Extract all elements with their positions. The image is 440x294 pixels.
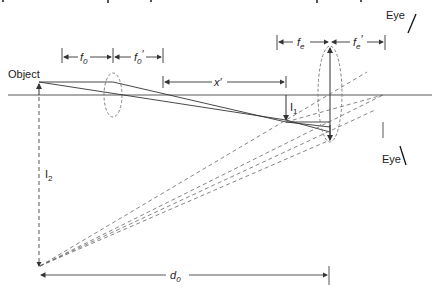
eye-bottom-label: Eye bbox=[382, 153, 401, 165]
f0-dimension bbox=[62, 48, 163, 63]
optics-diagram: Object f0 f0′ x′ I1 fe bbox=[0, 0, 440, 294]
d0-dimension bbox=[41, 266, 329, 285]
cropped-text-fragments bbox=[2, 0, 362, 3]
f0-label: f0 bbox=[80, 51, 88, 66]
i1-label: I1 bbox=[290, 101, 298, 116]
virtual-rays bbox=[40, 72, 383, 266]
d0-label: d0 bbox=[170, 269, 181, 284]
eye-top-label: Eye bbox=[386, 9, 405, 21]
eye-top-icon bbox=[408, 14, 416, 33]
x-prime-dimension bbox=[163, 76, 286, 88]
object-label: Object bbox=[8, 68, 40, 80]
x-prime-label: x′ bbox=[213, 76, 223, 88]
i2-label: I2 bbox=[45, 168, 53, 183]
fe-prime-label: fe′ bbox=[353, 33, 364, 51]
fe-label: fe bbox=[297, 36, 305, 51]
fe-dimension bbox=[277, 35, 385, 50]
f0-prime-label: f0′ bbox=[134, 48, 145, 66]
